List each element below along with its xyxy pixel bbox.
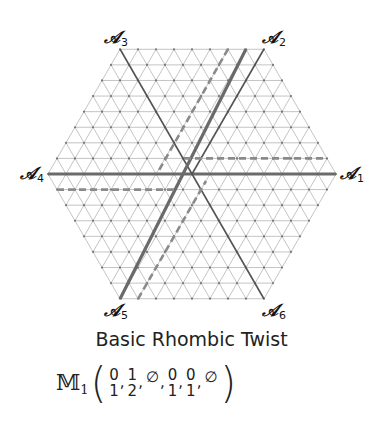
open-paren: ( xyxy=(91,362,107,404)
formula-separator: , xyxy=(120,373,125,391)
highlighted-lines xyxy=(48,49,336,299)
formula-entry: ∅ xyxy=(204,369,217,397)
close-paren: ) xyxy=(221,362,237,404)
formula-entry: 01 xyxy=(109,367,119,399)
formula-separator: , xyxy=(197,373,202,391)
axis-label-a1: 𝒜1 xyxy=(340,165,364,184)
formula-separator: , xyxy=(160,373,165,391)
formula-entry: 01 xyxy=(186,367,196,399)
axis-label-a3: 𝒜3 xyxy=(104,29,128,48)
formula-entry: 01 xyxy=(168,367,178,399)
formula-separator: , xyxy=(178,373,183,391)
formula-separator: , xyxy=(138,373,143,391)
axis-label-a4: 𝒜4 xyxy=(20,165,44,184)
formula-entry: 12 xyxy=(128,367,138,399)
diagram-caption: Basic Rhombic Twist xyxy=(0,328,383,350)
axis-label-a5: 𝒜5 xyxy=(104,302,128,321)
formula: 𝕄1 ( 01,12,∅,01,01,∅ ) xyxy=(56,358,238,408)
rhombic-twist-diagram xyxy=(0,0,383,320)
axis-label-a6: 𝒜6 xyxy=(262,302,286,321)
formula-entries: 01,12,∅,01,01,∅ xyxy=(108,367,218,399)
formula-symbol: 𝕄1 xyxy=(56,370,89,397)
axis-label-a2: 𝒜2 xyxy=(262,29,286,48)
formula-entry: ∅ xyxy=(146,369,159,397)
